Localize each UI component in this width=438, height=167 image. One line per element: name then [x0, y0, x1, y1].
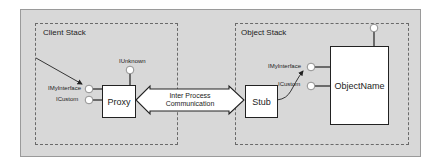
icustom-lollipop-icon	[85, 96, 93, 104]
object-imyinterface-label: IMyInterface	[268, 63, 301, 69]
client-iunknown-label: IUnknown	[119, 58, 146, 64]
obj-icustom-lollipop-icon	[307, 82, 315, 90]
com-proxy-stub-diagram: Client Stack Object Stack Proxy Stub Obj…	[0, 0, 438, 167]
client-imyinterface-label: IMyInterface	[48, 85, 81, 91]
object-icustom-label: ICustom	[278, 81, 300, 87]
object-box: ObjectName	[330, 46, 389, 125]
ipc-label-line1: Inter Process	[150, 92, 230, 100]
ipc-label: Inter Process Communication	[150, 92, 230, 108]
client-icustom-label: ICustom	[56, 96, 78, 102]
pointer-arrow-icon	[36, 58, 82, 84]
iunknown-lollipop-icon	[126, 66, 134, 74]
obj-iunknown-lollipop-icon	[370, 24, 378, 32]
proxy-box: Proxy	[102, 85, 136, 118]
imyinterface-lollipop-icon	[85, 85, 93, 93]
obj-imyinterface-lollipop-icon	[307, 63, 315, 71]
ipc-label-line2: Communication	[150, 100, 230, 108]
stub-box: Stub	[245, 85, 278, 118]
